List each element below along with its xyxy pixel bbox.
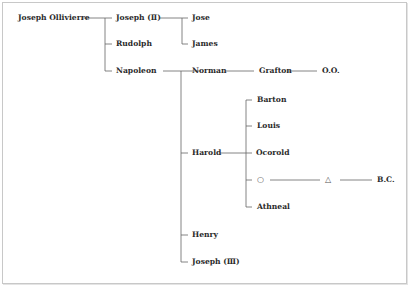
node-norman: Norman	[192, 66, 226, 76]
node-harold: Harold	[192, 148, 221, 158]
node-joseph-ollivierre: Joseph Ollivierre	[18, 13, 89, 23]
node-grafton: Grafton	[259, 66, 292, 76]
node-louis: Louis	[257, 121, 280, 131]
node-bc: B.C.	[377, 175, 395, 185]
node-rudolph: Rudolph	[116, 39, 152, 49]
node-athneal: Athneal	[257, 202, 290, 212]
node-barton: Barton	[257, 95, 286, 105]
node-james: James	[192, 39, 218, 49]
node-unknown-triangle-icon: △	[325, 175, 331, 185]
node-oo: O.O.	[322, 66, 340, 76]
node-jose: Jose	[192, 13, 210, 23]
node-joseph-ii: Joseph (Ⅱ)	[116, 13, 161, 23]
node-unknown-circle-icon: ○	[257, 175, 264, 185]
node-joseph-iii: Joseph (Ⅲ)	[192, 257, 240, 267]
node-henry: Henry	[192, 230, 218, 240]
node-ocorold: Ocorold	[256, 148, 290, 158]
node-napoleon: Napoleon	[116, 66, 157, 76]
